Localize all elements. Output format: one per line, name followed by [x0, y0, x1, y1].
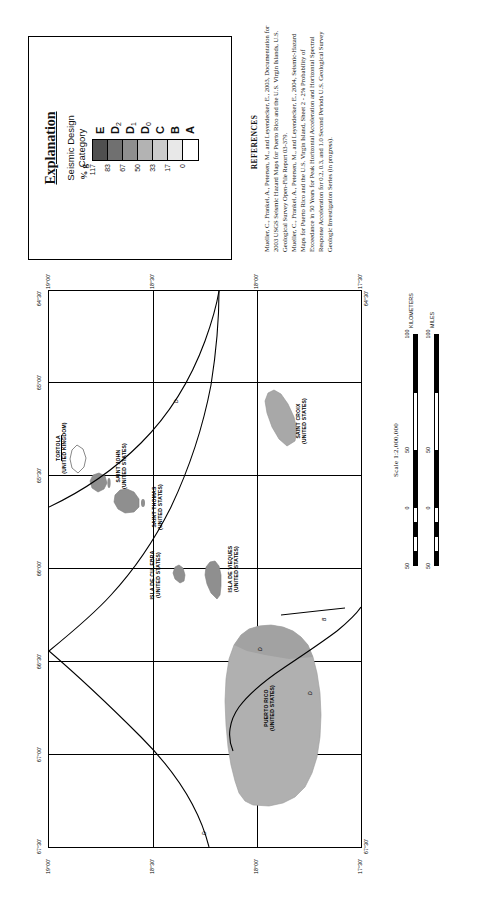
explanation-subtitle-line1: Seismic Design: [65, 47, 76, 249]
legend-swatch-d0: [138, 140, 153, 160]
lat-tick-label: 18°30': [149, 859, 155, 874]
map-sheet: D D D D B PUERTO RICO (UNITED STATES) IS…: [0, 0, 494, 900]
legend-value: 0: [179, 164, 186, 168]
legend-category-e: E: [94, 127, 106, 134]
lon-tick-label: 66°00': [36, 561, 42, 576]
place-label-puerto-rico: PUERTO RICO (UNITED STATES): [263, 665, 276, 751]
legend-value: 17: [164, 164, 171, 172]
place-label-tortola: TORTOLA (UNITED KINGDOM): [55, 407, 68, 489]
lat-tick-label: 19°00': [45, 274, 51, 289]
lon-tick-label: 64°30': [36, 291, 42, 306]
legend-category-d2: D2: [109, 122, 121, 134]
scale-tick: 100: [404, 330, 410, 339]
legend-category-d1: D1: [124, 122, 136, 134]
place-label-saint-croix: SAINT CROIX (UNITED STATES): [295, 381, 308, 461]
legend-swatch-column: [92, 139, 199, 161]
place-country: (UNITED STATES): [121, 427, 127, 505]
legend-category-column: E D2 D1 D0 C B A: [92, 108, 197, 139]
place-label-isla-de-vieques: ISLA DE VIEQUES (UNITED STATES): [227, 527, 240, 611]
scale-tick: 50: [404, 447, 410, 453]
lon-tick-label: 65°30': [36, 468, 42, 483]
explanation-subtitle: Seismic Design Category: [65, 47, 87, 249]
legend-swatch-a: [183, 140, 198, 160]
legend-value: 67: [119, 164, 126, 172]
place-country: (UNITED STATES): [157, 467, 163, 547]
legend-category-c: C: [154, 126, 166, 134]
seismic-contour-lines: [49, 291, 361, 847]
scale-tick: 50: [404, 563, 410, 569]
lat-tick-label: 18°30': [149, 274, 155, 289]
place-country: (UNITED STATES): [269, 665, 275, 751]
explanation-box: Explanation Seismic Design Category % g …: [28, 36, 232, 260]
legend-value: 50: [134, 164, 141, 172]
lon-tick-label: 65°00': [36, 375, 42, 390]
contour-label: B: [321, 618, 327, 621]
lon-tick-label: 64°30': [363, 291, 369, 306]
legend-value: 117: [89, 164, 96, 175]
scale-bar-miles: 50 0 50 100 MILES: [428, 334, 445, 566]
contour-label: D: [201, 831, 207, 835]
legend-value: 83: [104, 164, 111, 172]
legend-swatch-e: [93, 140, 108, 160]
legend-category-a: A: [184, 126, 196, 134]
legend-swatch-c: [153, 140, 168, 160]
place-label-saint-thomas: SAINT THOMAS (UNITED STATES): [151, 467, 164, 547]
contour-label: D: [173, 399, 179, 403]
place-country: (UNITED STATES): [233, 527, 239, 611]
scale-tick: 0: [425, 507, 431, 510]
scale-tick: 100: [425, 330, 431, 339]
lon-tick-label: 67°30': [363, 839, 369, 854]
references-section: REFERENCES Mueller, C., Frankel, A., Pet…: [250, 24, 336, 260]
contour-label: D: [257, 647, 263, 651]
reference-entry: Mueller, C., Frankel, A., Petersen, M., …: [263, 24, 289, 260]
explanation-subtitle-line2: Category: [76, 47, 87, 249]
scale-tick: 50: [425, 447, 431, 453]
map-frame: D D D D B PUERTO RICO (UNITED STATES) IS…: [48, 290, 362, 848]
legend-swatch-d2: [108, 140, 123, 160]
legend-category-b: B: [169, 126, 181, 134]
place-label-saint-john: SAINT JOHN (UNITED STATES): [115, 427, 128, 505]
explanation-title: Explanation: [43, 47, 59, 249]
scale-bar-kilometers: 50 0 50 100 KILOMETERS: [407, 334, 424, 566]
legend-units-label: % g: [79, 164, 89, 180]
reference-entry: Mueller, C., Frankel, A., Petersen, M., …: [290, 24, 334, 260]
place-country: (UNITED STATES): [301, 381, 307, 461]
scale-block: Scale 1:2,000,000 50 0 50 100 KILOMETERS: [392, 300, 449, 600]
legend-swatch-b: [168, 140, 183, 160]
lat-tick-label: 18°00': [253, 274, 259, 289]
scale-tick: 50: [425, 563, 431, 569]
legend-category-d0: D0: [139, 122, 151, 134]
lon-tick-label: 67°00': [36, 747, 42, 762]
lat-tick-label: 19°00': [45, 859, 51, 874]
scale-unit-kilometers: KILOMETERS: [408, 293, 414, 328]
lat-tick-label: 18°00': [253, 859, 259, 874]
legend-swatch-d1: [123, 140, 138, 160]
legend: % g 117 83 67 50 33 17 0 E: [92, 47, 199, 249]
lat-tick-label: 17°30': [357, 859, 363, 874]
map-panel: D D D D B PUERTO RICO (UNITED STATES) IS…: [30, 278, 375, 878]
lon-tick-label: 66°30': [36, 654, 42, 669]
scale-ratio-label: Scale 1:2,000,000: [392, 300, 400, 600]
place-country: (UNITED KINGDOM): [61, 407, 67, 489]
lon-tick-label: 67°30': [36, 839, 42, 854]
references-title: REFERENCES: [250, 24, 259, 260]
legend-value: 33: [149, 164, 156, 172]
legend-values-column: % g 117 83 67 50 33 17 0: [92, 161, 197, 188]
contour-label: D: [307, 691, 313, 695]
scale-unit-miles: MILES: [429, 312, 435, 328]
lat-tick-label: 17°30': [357, 274, 363, 289]
scale-tick: 0: [404, 507, 410, 510]
